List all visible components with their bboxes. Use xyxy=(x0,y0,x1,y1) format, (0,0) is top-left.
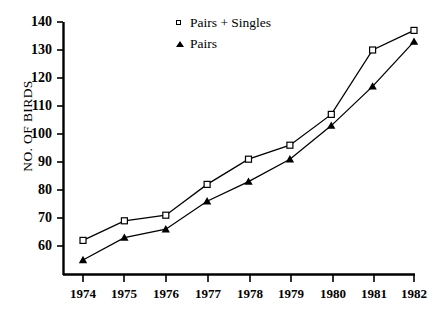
legend-label-pairs-singles: Pairs + Singles xyxy=(190,15,271,31)
series-line-pairs-singles xyxy=(83,30,414,240)
legend-item-pairs: Pairs xyxy=(176,35,271,52)
y-tick-label-120: 120 xyxy=(18,70,52,86)
data-point-open-square xyxy=(411,27,417,33)
open-square-marker-icon xyxy=(176,20,190,25)
data-point-open-square xyxy=(163,212,169,218)
legend-label-pairs: Pairs xyxy=(190,36,217,52)
y-tick-label-140: 140 xyxy=(18,14,52,30)
legend-item-pairs-singles: Pairs + Singles xyxy=(176,14,271,31)
x-tick-label-1982: 1982 xyxy=(391,286,437,302)
x-tick-label-1977: 1977 xyxy=(185,286,231,302)
y-tick-label-80: 80 xyxy=(18,182,52,198)
y-tick-label-130: 130 xyxy=(18,42,52,58)
x-tick-label-1978: 1978 xyxy=(227,286,273,302)
x-tick-label-1976: 1976 xyxy=(143,286,189,302)
data-point-filled-triangle xyxy=(162,225,170,232)
filled-triangle-marker-icon xyxy=(176,41,190,47)
y-tick-label-110: 110 xyxy=(18,98,52,114)
y-axis-ticks xyxy=(57,22,63,246)
data-point-open-square xyxy=(328,111,334,117)
data-point-open-square xyxy=(287,142,293,148)
y-tick-label-90: 90 xyxy=(18,154,52,170)
data-series-layer xyxy=(79,27,418,263)
y-tick-label-70: 70 xyxy=(18,210,52,226)
y-tick-label-60: 60 xyxy=(18,238,52,254)
x-tick-label-1979: 1979 xyxy=(268,286,314,302)
data-point-open-square xyxy=(246,156,252,162)
data-point-open-square xyxy=(204,181,210,187)
data-point-filled-triangle xyxy=(410,37,418,44)
x-tick-label-1974: 1974 xyxy=(60,286,106,302)
chart-legend: Pairs + Singles Pairs xyxy=(176,14,271,56)
x-tick-label-1975: 1975 xyxy=(101,286,147,302)
data-point-filled-triangle xyxy=(244,177,252,184)
x-axis-ticks xyxy=(83,275,414,282)
series-line-pairs xyxy=(83,42,414,260)
y-tick-label-100: 100 xyxy=(18,126,52,142)
data-point-filled-triangle xyxy=(203,197,211,204)
bird-count-line-chart: NO. OF BIRDS xyxy=(0,0,447,309)
data-point-open-square xyxy=(80,237,86,243)
data-point-filled-triangle xyxy=(79,256,87,263)
x-tick-label-1980: 1980 xyxy=(310,286,356,302)
data-point-open-square xyxy=(121,218,127,224)
data-point-open-square xyxy=(370,47,376,53)
